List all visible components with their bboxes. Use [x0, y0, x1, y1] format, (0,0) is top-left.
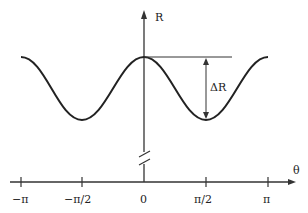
x-axis-arrow-icon: [288, 179, 296, 185]
tick-label-neg-pi: −π: [12, 193, 28, 206]
y-axis-label: R: [155, 11, 163, 24]
delta-r-label: ΔR: [210, 81, 226, 94]
y-axis-arrow-icon: [141, 10, 147, 19]
tick-label-neg-half-pi: −π/2: [64, 193, 91, 206]
tick-label-half-pi: π/2: [194, 193, 212, 206]
tick-label-zero: 0: [140, 193, 147, 206]
tick-label-pi: π: [263, 193, 270, 206]
resistance-vs-angle-diagram: R θ ΔR −π −π/2 0 π/2 π: [0, 0, 308, 213]
diagram-canvas: [0, 0, 308, 213]
axis-break-icon: [139, 151, 150, 165]
x-axis-label: θ: [293, 164, 300, 177]
